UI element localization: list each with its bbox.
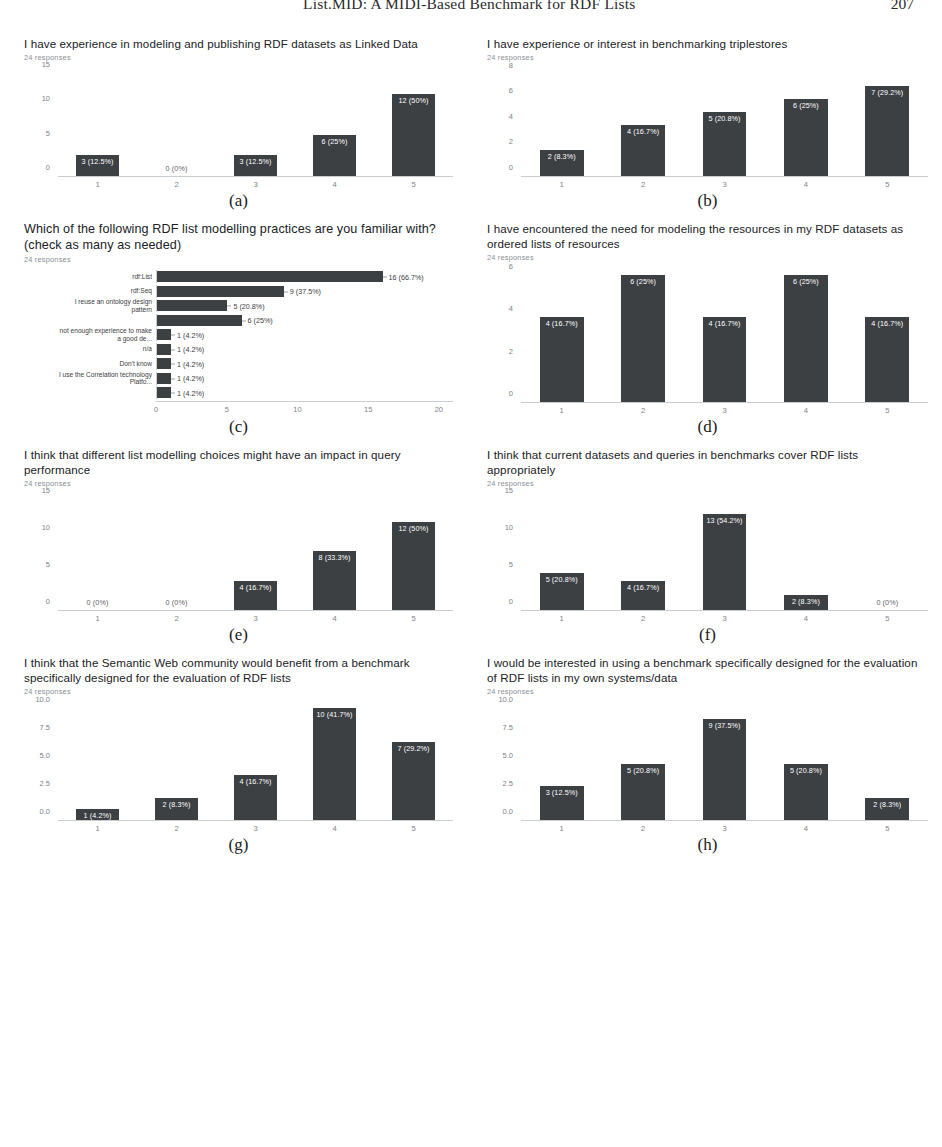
x-axis-ticks: 12345: [58, 180, 453, 189]
bar[interactable]: [157, 286, 284, 297]
chart-title-b: I have experience or interest in benchma…: [487, 36, 928, 51]
plot-area-a: 0510153 (12.5%)0 (0%)3 (12.5%)6 (25%)12 …: [58, 66, 453, 177]
bar-slot: 0 (0%): [847, 492, 928, 610]
bar-value-label: 4 (16.7%): [546, 319, 578, 328]
bar[interactable]: 12 (50%): [392, 522, 435, 611]
bar[interactable]: 5 (20.8%): [703, 112, 747, 176]
bar[interactable]: 7 (29.2%): [865, 86, 909, 176]
bar-value-label: 6 (25%): [793, 101, 819, 110]
bar[interactable]: 6 (25%): [313, 135, 356, 176]
x-tick-label: 5: [847, 614, 928, 623]
x-tick-label: 1: [521, 824, 602, 833]
x-tick-label: 3: [216, 614, 295, 623]
chart-title-c: Which of the following RDF list modellin…: [24, 221, 453, 253]
bar-group: 1 (4.2%)2 (8.3%)4 (16.7%)10 (41.7%)7 (29…: [58, 700, 453, 820]
figure-row-1: I have experience in modeling and publis…: [0, 36, 942, 221]
bar[interactable]: 1 (4.2%): [76, 809, 119, 820]
bar[interactable]: 4 (16.7%): [621, 125, 665, 176]
bar[interactable]: 4 (16.7%): [540, 317, 584, 402]
bar[interactable]: [157, 373, 171, 384]
chart-title-d: I have encountered the need for modeling…: [487, 221, 928, 251]
bar-value-label: 4 (16.7%): [708, 319, 740, 328]
bar[interactable]: 2 (8.3%): [155, 798, 198, 820]
bar-group: 3 (12.5%)0 (0%)3 (12.5%)6 (25%)12 (50%): [58, 66, 453, 176]
bar[interactable]: [157, 315, 242, 326]
bar[interactable]: 7 (29.2%): [392, 742, 435, 821]
y-tick-label: 2.5: [40, 778, 50, 787]
bar[interactable]: 6 (25%): [621, 275, 665, 403]
bar[interactable]: 3 (12.5%): [540, 786, 584, 820]
bar[interactable]: 3 (12.5%): [76, 155, 119, 176]
bar-value-label: 13 (54.2%): [706, 516, 742, 525]
bar-value-label: 8 (33.3%): [318, 553, 350, 562]
x-tick-label: 1: [58, 180, 137, 189]
y-tick-label: 10: [505, 523, 513, 532]
x-tick-label: 5: [847, 824, 928, 833]
bar-chart-f: 0510155 (20.8%)4 (16.7%)13 (54.2%)2 (8.3…: [487, 492, 928, 623]
category-label: not enough experience to make a good de.…: [24, 327, 156, 342]
bar-value-label: 2 (8.3%): [163, 800, 191, 809]
bar-value-label: 1 (4.2%): [84, 811, 112, 820]
plot-area-d: 02464 (16.7%)6 (25%)4 (16.7%)6 (25%)4 (1…: [521, 266, 928, 403]
bar[interactable]: [157, 387, 171, 398]
chart-responses-a: 24 responses: [24, 53, 453, 62]
bar[interactable]: 9 (37.5%): [703, 719, 747, 820]
bar[interactable]: 3 (12.5%): [234, 155, 277, 176]
x-tick-label: 2: [602, 406, 683, 415]
bar-value-label: 12 (50%): [399, 524, 429, 533]
bar[interactable]: 2 (8.3%): [540, 150, 584, 176]
bar[interactable]: 13 (54.2%): [703, 514, 747, 610]
bar-slot: 3 (12.5%): [521, 700, 602, 820]
bar[interactable]: [157, 271, 383, 282]
y-tick-label: 0.0: [40, 807, 50, 816]
bar-value-label: 5 (20.8%): [790, 766, 822, 775]
y-tick-label: 5.0: [503, 750, 513, 759]
page-number: 207: [891, 0, 914, 11]
bar[interactable]: 4 (16.7%): [703, 317, 747, 402]
bar-value-label: 1 (4.2%): [171, 330, 204, 339]
y-tick-label: 5.0: [40, 750, 50, 759]
running-head-title: List.MID: A MIDI-Based Benchmark for RDF…: [303, 0, 636, 11]
bar[interactable]: 4 (16.7%): [234, 581, 277, 611]
bar-slot: 0 (0%): [137, 492, 216, 610]
bar-value-label: 6 (25%): [793, 277, 819, 286]
bar[interactable]: 5 (20.8%): [540, 573, 584, 610]
bar-slot: 5 (20.8%): [765, 700, 846, 820]
x-axis-ticks: 12345: [58, 614, 453, 623]
bar[interactable]: 2 (8.3%): [865, 798, 909, 820]
bar-value-label: 5 (20.8%): [627, 766, 659, 775]
bar[interactable]: 4 (16.7%): [234, 775, 277, 820]
figure-cell-c: Which of the following RDF list modellin…: [0, 221, 471, 447]
bar[interactable]: 4 (16.7%): [865, 317, 909, 402]
bar-value-label: 0 (0%): [876, 598, 898, 607]
bar[interactable]: 10 (41.7%): [313, 708, 356, 820]
bar[interactable]: 8 (33.3%): [313, 551, 356, 610]
bar[interactable]: 6 (25%): [784, 99, 828, 176]
x-tick-label: 3: [216, 824, 295, 833]
chart-responses-h: 24 responses: [487, 687, 928, 696]
x-tick-label: 5: [374, 614, 453, 623]
bar[interactable]: 12 (50%): [392, 94, 435, 177]
x-axis-ticks: 12345: [521, 824, 928, 833]
bar[interactable]: [157, 329, 171, 340]
bar[interactable]: 2 (8.3%): [784, 595, 828, 610]
bar-value-label: 4 (16.7%): [239, 777, 271, 786]
bar[interactable]: 6 (25%): [784, 275, 828, 403]
x-tick-label: 5: [225, 405, 229, 414]
x-tick-label: 3: [684, 824, 765, 833]
bar[interactable]: [157, 344, 171, 355]
chart-title-g: I think that the Semantic Web community …: [24, 655, 453, 685]
bar[interactable]: [157, 358, 171, 369]
bar-value-label: 3 (12.5%): [81, 157, 113, 166]
plot-area-f: 0510155 (20.8%)4 (16.7%)13 (54.2%)2 (8.3…: [521, 492, 928, 611]
chart-responses-b: 24 responses: [487, 53, 928, 62]
bar[interactable]: 5 (20.8%): [784, 764, 828, 820]
bar[interactable]: [157, 300, 227, 311]
y-tick-label: 2: [509, 346, 513, 355]
bar-slot: 4 (16.7%): [521, 266, 602, 402]
bar[interactable]: 5 (20.8%): [621, 764, 665, 820]
bar-row: not enough experience to make a good de.…: [24, 328, 453, 341]
subcaption-d: (d): [487, 417, 928, 437]
y-tick-label: 5: [46, 128, 50, 137]
bar[interactable]: 4 (16.7%): [621, 581, 665, 611]
